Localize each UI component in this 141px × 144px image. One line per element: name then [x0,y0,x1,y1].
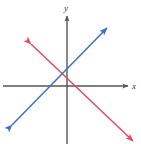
blue-line [12,28,107,125]
y-axis-label: y [63,3,68,13]
coordinate-plane-svg: y x [0,0,141,144]
graph-figure: y x [0,0,141,144]
red-line [31,44,133,141]
x-axis-label: x [131,81,136,91]
